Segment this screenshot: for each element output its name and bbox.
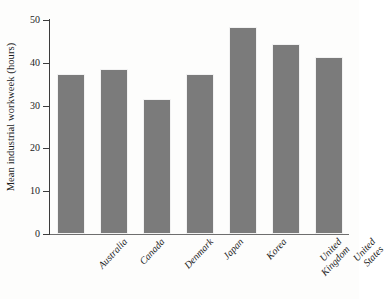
x-tick-label: UnitedKingdom [310, 236, 351, 278]
bar[interactable] [315, 57, 343, 234]
y-tick-label: 30 [18, 101, 40, 111]
x-tick-label: Korea [264, 236, 289, 262]
x-tick-label: Canada [137, 236, 167, 267]
x-axis-labels: AustraliaCanadaDenmarkJapanKoreaUnitedKi… [49, 236, 349, 299]
y-tick-label: 0 [18, 229, 40, 239]
x-tick-label: UnitedStates [350, 236, 385, 271]
y-axis-title: Mean industrial workweek (hours) [2, 0, 18, 234]
x-axis-line [49, 234, 349, 235]
bars-container [49, 20, 349, 234]
x-tick-label: Australia [96, 236, 129, 271]
bar[interactable] [100, 69, 128, 234]
bar[interactable] [143, 99, 171, 234]
bar[interactable] [229, 27, 257, 234]
y-tick-mark [43, 234, 50, 235]
y-tick-label: 50 [18, 15, 40, 25]
bar[interactable] [186, 74, 214, 234]
bar[interactable] [57, 74, 85, 234]
y-tick-label: 20 [18, 143, 40, 153]
x-tick-label: Japan [221, 236, 246, 261]
x-tick-label: Denmark [182, 236, 215, 271]
y-tick-label: 40 [18, 58, 40, 68]
bar[interactable] [272, 44, 300, 234]
y-tick-label: 10 [18, 186, 40, 196]
